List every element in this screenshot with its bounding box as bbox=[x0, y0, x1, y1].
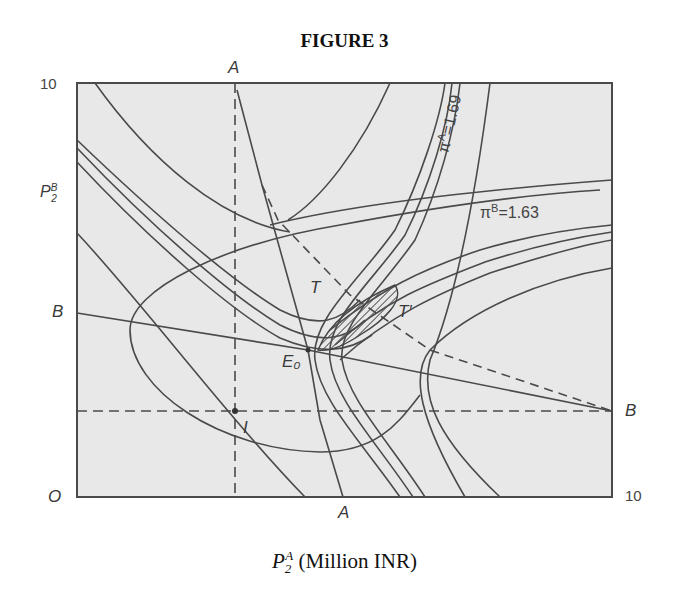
point-E0-marker bbox=[306, 348, 311, 353]
x-axis-label: P2A (Million INR) bbox=[0, 548, 689, 577]
point-I-marker bbox=[232, 408, 238, 414]
y-axis-label: P_2^BPB2 bbox=[40, 182, 57, 204]
plot-area bbox=[0, 0, 689, 590]
x-axis-label-sub: 2 bbox=[285, 561, 292, 576]
label-T: T bbox=[310, 278, 320, 298]
tick-origin: O bbox=[48, 487, 61, 507]
label-B-left: B bbox=[52, 302, 63, 322]
tick-x-max: 10 bbox=[625, 487, 642, 504]
x-axis-label-unit: (Million INR) bbox=[299, 549, 417, 573]
tick-y-max: 10 bbox=[40, 75, 57, 92]
x-axis-label-sup: A bbox=[285, 548, 293, 563]
label-B-right: B bbox=[625, 401, 636, 421]
label-T-prime: T′ bbox=[398, 302, 412, 322]
label-A-top: A bbox=[228, 58, 239, 78]
label-A-bottom: A bbox=[338, 503, 349, 523]
label-I: I bbox=[243, 418, 248, 438]
annotation-pi-B: πB=1.63 bbox=[480, 202, 539, 222]
label-E0: E₀ bbox=[282, 352, 301, 372]
